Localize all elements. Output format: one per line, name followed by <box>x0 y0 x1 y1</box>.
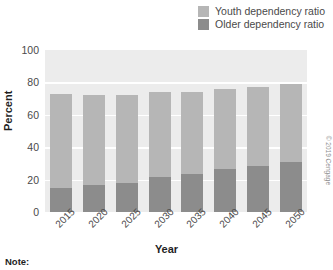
bar-segment-youth <box>149 92 171 177</box>
x-axis-tick-labels: 20152020202520302035204020452050 <box>45 214 307 242</box>
dependency-ratio-chart-figure: Youth dependency ratio Older dependency … <box>0 0 333 270</box>
plot-area <box>45 50 307 212</box>
y-tick-label: 80 <box>27 76 39 88</box>
legend-swatch-youth-icon <box>198 6 209 17</box>
copyright-credit: © 2019 Cengage <box>325 136 332 185</box>
y-tick-label: 60 <box>27 109 39 121</box>
y-axis-tick-labels: 020406080100 <box>0 50 43 212</box>
legend-item-youth-dependency-ratio: Youth dependency ratio <box>198 6 325 17</box>
bar-segment-youth <box>181 92 203 174</box>
bar-segment-youth <box>214 89 236 169</box>
bar-segment-older <box>280 162 302 212</box>
legend-label-youth: Youth dependency ratio <box>215 6 325 17</box>
bar-segment-youth <box>83 95 105 185</box>
legend-item-older-dependency-ratio: Older dependency ratio <box>198 19 324 30</box>
x-tick-cell: 2015 <box>50 214 72 242</box>
bar-stack <box>247 50 269 212</box>
legend-swatch-older-icon <box>198 19 209 30</box>
y-tick-label: 0 <box>33 206 39 218</box>
bar-stack <box>116 50 138 212</box>
note-label: Note: <box>5 256 29 267</box>
y-tick-label: 20 <box>27 174 39 186</box>
y-tick-label: 100 <box>21 44 39 56</box>
legend-label-older: Older dependency ratio <box>215 19 324 30</box>
bar-segment-youth <box>247 87 269 166</box>
bar-stack <box>50 50 72 212</box>
bar-stack <box>83 50 105 212</box>
bar-stack <box>149 50 171 212</box>
bar-segment-youth <box>116 95 138 182</box>
bar-stack <box>181 50 203 212</box>
y-tick-label: 40 <box>27 141 39 153</box>
chart-legend: Youth dependency ratio Older dependency … <box>198 6 325 30</box>
bar-segment-youth <box>50 94 72 188</box>
bar-series-group <box>45 50 307 212</box>
bar-segment-youth <box>280 84 302 162</box>
x-axis-title: Year <box>0 243 333 255</box>
bar-stack <box>214 50 236 212</box>
bar-stack <box>280 50 302 212</box>
